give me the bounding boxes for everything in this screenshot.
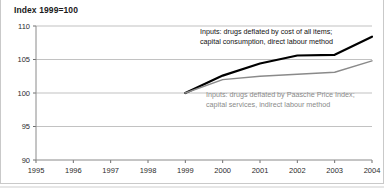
x-axis-tick-group: 1995199619971998199920002001200220032004 xyxy=(28,160,381,175)
series-b-annotation-line1: Inputs: drugs deflated by Paasche Price … xyxy=(206,90,355,99)
series-b-annotation-line2: capital services, indirect labour method xyxy=(206,100,330,109)
x-axis-tick-label: 2002 xyxy=(289,166,306,175)
y-axis-tick-group: 9095100105110 xyxy=(17,22,36,165)
x-axis-tick-label: 2000 xyxy=(214,166,231,175)
x-axis-tick-label: 2004 xyxy=(364,166,381,175)
y-axis-tick-label: 95 xyxy=(22,122,30,131)
x-axis-tick-label: 1995 xyxy=(28,166,45,175)
x-axis-tick-label: 2001 xyxy=(252,166,269,175)
x-axis-tick-label: 1999 xyxy=(177,166,194,175)
series-a-annotation-line2: capital consumption, direct labour metho… xyxy=(200,37,333,46)
x-axis-tick-label: 1997 xyxy=(102,166,119,175)
y-axis-tick-label: 105 xyxy=(17,55,30,64)
line-chart-plot: 9095100105110 19951996199719981999200020… xyxy=(0,0,384,193)
x-axis-tick-label: 1998 xyxy=(140,166,157,175)
data-series-line-b xyxy=(185,61,372,93)
y-axis-tick-label: 110 xyxy=(18,22,30,31)
y-axis-tick-label: 100 xyxy=(17,89,30,98)
x-axis-tick-label: 1996 xyxy=(65,166,82,175)
chart-figure: Index 1999=100 9095100105110 19951996199… xyxy=(0,0,384,193)
y-axis-tick-label: 90 xyxy=(22,156,30,165)
x-axis-tick-label: 2003 xyxy=(326,166,343,175)
series-a-annotation-line1: Inputs: drugs deflated by cost of all it… xyxy=(200,27,332,36)
